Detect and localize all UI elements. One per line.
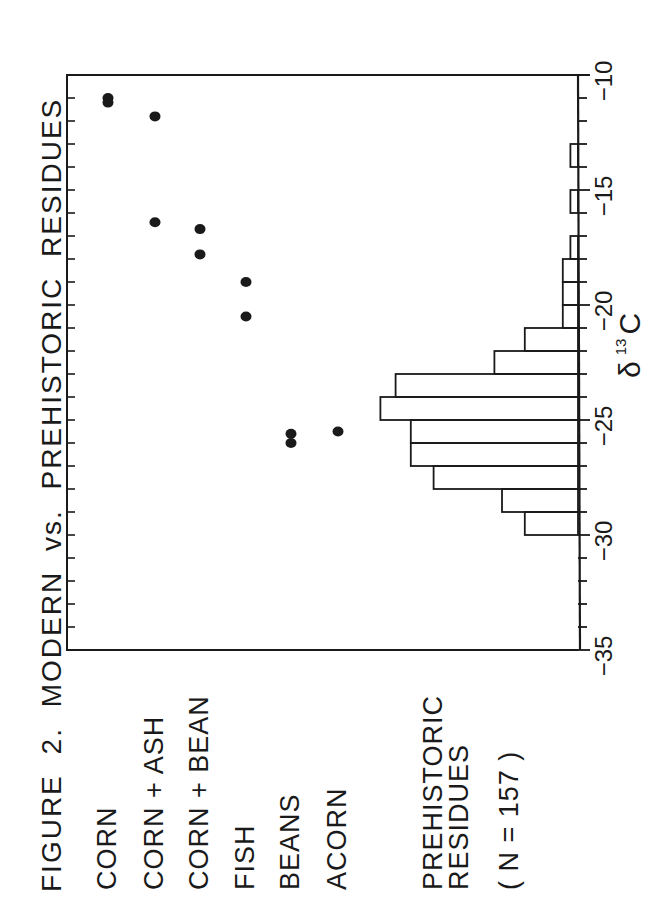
delta-symbol: δ: [613, 361, 646, 378]
figure-title: FIGURE 2. MODERN vs. PREHISTORIC RESIDUE…: [38, 98, 66, 892]
histogram-bar: [380, 397, 578, 420]
histogram-bar: [494, 351, 578, 374]
plot-area: [0, 0, 671, 920]
histogram-bar: [411, 443, 578, 466]
isotope-superscript: 13: [612, 339, 629, 356]
category-label: CORN: [94, 807, 121, 891]
histogram-bar: [570, 144, 578, 167]
data-point: [241, 312, 252, 322]
category-label: ACORN: [324, 787, 351, 890]
category-label: CORN + BEAN: [186, 695, 213, 890]
data-point: [150, 217, 161, 227]
histogram-bar: [563, 305, 578, 328]
histogram-bar: [434, 466, 578, 489]
histogram-bar: [563, 282, 578, 305]
x-axis-tick-label: −35: [590, 636, 618, 677]
data-point: [103, 98, 114, 108]
data-point: [286, 429, 297, 439]
data-point: [195, 249, 206, 259]
plot-frame: [67, 75, 590, 650]
histogram-label-line1: PREHISTORIC: [420, 695, 447, 890]
histogram-bar: [411, 420, 578, 443]
histogram-bar: [570, 236, 578, 259]
histogram-bar: [396, 374, 578, 397]
sample-size-label: ( N = 157 ): [496, 751, 523, 890]
histogram-bar: [563, 259, 578, 282]
histogram-bar: [525, 512, 578, 535]
x-axis-tick-label: −30: [590, 521, 618, 562]
histogram-bar: [525, 328, 578, 351]
histogram-bar: [570, 190, 578, 213]
data-point: [195, 224, 206, 234]
histogram-label-line2: RESIDUES: [446, 744, 473, 890]
data-point: [150, 111, 161, 121]
x-axis-tick-label: −25: [590, 406, 618, 447]
x-axis-tick-label: −10: [590, 61, 618, 102]
x-axis-title: δ13C: [612, 313, 647, 378]
category-label: BEANS: [277, 793, 304, 890]
histogram-bar: [502, 489, 578, 512]
x-axis-tick-label: −15: [590, 176, 618, 217]
data-point: [333, 427, 344, 437]
data-point: [286, 438, 297, 448]
category-label: CORN + ASH: [141, 716, 168, 890]
category-label: FISH: [232, 824, 259, 890]
element-symbol: C: [613, 313, 646, 335]
data-point: [241, 277, 252, 287]
figure: FIGURE 2. MODERN vs. PREHISTORIC RESIDUE…: [0, 0, 671, 920]
